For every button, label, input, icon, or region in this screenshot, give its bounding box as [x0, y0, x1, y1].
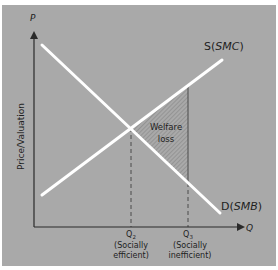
supply-label: S(SMC)	[204, 40, 244, 53]
q2-subscript: 2	[132, 234, 136, 240]
welfare-loss-diagram: P Price/Valuation Q S(SMC) D(SMB) Welfar…	[0, 0, 278, 270]
q3-symbol: Q3	[183, 230, 193, 240]
demand-label-name: SMB	[234, 200, 258, 213]
welfare-loss-label-line2: loss	[158, 134, 175, 144]
q3-subscript: 3	[189, 234, 193, 240]
q2-symbol: Q2	[126, 230, 136, 240]
q2-desc-line1: (Socially	[114, 241, 148, 250]
diagram-frame: P Price/Valuation Q S(SMC) D(SMB) Welfar…	[0, 0, 278, 270]
supply-label-suffix: )	[239, 40, 243, 53]
q3-desc-line2: inefficient)	[169, 251, 212, 260]
y-axis-symbol: P	[30, 13, 36, 23]
supply-curve	[42, 60, 222, 195]
q2-desc-line2: efficient)	[113, 251, 149, 260]
supply-label-prefix: S(	[204, 40, 215, 53]
x-axis-symbol: Q	[246, 223, 253, 233]
demand-label: D(SMB)	[221, 200, 262, 213]
demand-label-prefix: D(	[221, 200, 234, 213]
y-axis-label: Price/Valuation	[16, 103, 26, 170]
welfare-loss-label-line1: Welfare	[150, 122, 182, 132]
q3-desc-line1: (Socially	[173, 241, 207, 250]
demand-label-suffix: )	[258, 200, 262, 213]
supply-label-name: SMC	[215, 40, 239, 53]
